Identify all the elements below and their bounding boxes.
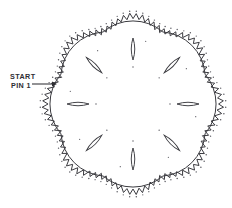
pin-dot <box>94 28 95 29</box>
pin-dot <box>196 171 197 172</box>
pin-dot <box>190 175 191 176</box>
pin-dot <box>154 187 155 188</box>
leaf-motif <box>163 56 181 74</box>
leaf-motif <box>131 148 135 170</box>
pin-dot <box>225 107 226 108</box>
pin-dot <box>116 191 117 192</box>
pin-dot <box>52 77 53 78</box>
pin-dot <box>123 194 124 195</box>
pin-dot <box>55 71 56 72</box>
guide-dot <box>97 50 98 51</box>
pin-dot <box>213 130 214 131</box>
start-label: START <box>10 72 36 81</box>
pin-dot <box>136 11 137 12</box>
lobe-arc <box>61 32 103 74</box>
pin-dot <box>82 177 83 178</box>
inner-pin-dot <box>132 140 133 141</box>
inner-pin-dot <box>132 66 133 67</box>
pin-dot <box>48 125 49 126</box>
pin-dot <box>88 29 89 30</box>
pin-dot <box>200 40 201 41</box>
pin-dot <box>40 100 41 101</box>
pin-dot <box>69 35 70 36</box>
pin-dot <box>200 166 201 167</box>
guide-dot <box>120 166 121 167</box>
pin-dot <box>148 16 149 17</box>
pin-dot <box>61 46 62 47</box>
pin-dot <box>59 154 60 155</box>
pin-dot <box>75 32 76 33</box>
pin-dot <box>204 46 205 47</box>
pin-dot <box>176 178 177 179</box>
pin-dot <box>75 174 76 175</box>
pin-dot <box>216 125 217 126</box>
leaf-motif <box>85 134 103 152</box>
leaf-motif <box>131 38 135 60</box>
pin-dot <box>164 181 165 182</box>
guide-dot <box>79 139 80 140</box>
pin-dot <box>111 187 112 188</box>
pin-dot <box>164 26 165 27</box>
pin-dot <box>136 196 137 197</box>
guide-dot <box>145 41 146 42</box>
pin-dot <box>210 71 211 72</box>
pin-dot <box>142 194 143 195</box>
rosette-pattern-figure: START PIN 1 <box>0 0 232 208</box>
pin-dot <box>106 23 107 24</box>
pin-dot <box>42 113 43 114</box>
pin-dot <box>88 178 89 179</box>
pin-dot <box>45 119 46 120</box>
pin-dot <box>190 32 191 33</box>
pin-one-label: PIN 1 <box>11 81 31 90</box>
pin-dot <box>52 130 53 131</box>
lobe-arc <box>163 32 205 74</box>
pin-dot <box>57 141 58 142</box>
lobe-arc <box>163 134 205 176</box>
pin-dot <box>213 77 214 78</box>
pin-dot <box>58 148 59 149</box>
pin-dot <box>45 88 46 89</box>
pin-dot <box>148 191 149 192</box>
pin-dot <box>64 40 65 41</box>
pin-dot <box>183 30 184 31</box>
pin-dot <box>117 16 118 17</box>
pin-dot <box>159 23 160 24</box>
pin-dot <box>170 28 171 29</box>
inner-pin-dot <box>106 77 107 78</box>
pin-dot <box>154 19 155 20</box>
pin-dot <box>205 154 206 155</box>
pin-dot <box>223 113 224 114</box>
pin-dot <box>61 161 62 162</box>
pin-dot <box>58 59 59 60</box>
pin-dot <box>208 141 209 142</box>
leaf-motifs <box>67 38 199 170</box>
pin-dot <box>81 30 82 31</box>
sawtooth-outer-edge <box>42 13 223 194</box>
start-arrow <box>32 81 57 86</box>
pin-dot <box>100 26 101 27</box>
pin-dot <box>48 82 49 83</box>
pin-dot <box>220 88 221 89</box>
pin-dot <box>205 52 206 53</box>
pin-dot <box>100 181 101 182</box>
leaf-motif <box>85 56 103 74</box>
pin-dot <box>64 166 65 167</box>
pin-dot <box>106 184 107 185</box>
pin-dot <box>207 148 208 149</box>
pin-dot <box>122 12 123 13</box>
inner-pin-dot <box>106 129 107 130</box>
leaf-motif <box>67 102 89 106</box>
pin-dot <box>220 119 221 120</box>
lobe-arcs <box>50 21 216 187</box>
pin-dot <box>142 12 143 13</box>
pin-dot <box>57 65 58 66</box>
pin-dot <box>94 179 95 180</box>
inner-pin-dot <box>169 103 170 104</box>
pin-dot <box>203 161 204 162</box>
pin-dot <box>40 107 41 108</box>
guide-dot <box>195 116 196 117</box>
pin-dot <box>111 19 112 20</box>
pin-dot <box>170 179 171 180</box>
pin-dot <box>207 59 208 60</box>
pin-dot <box>159 184 160 185</box>
